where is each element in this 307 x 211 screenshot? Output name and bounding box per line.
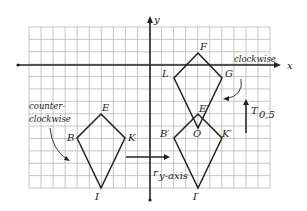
label-I: I (94, 191, 100, 202)
y-axis-label: y (153, 14, 160, 25)
reflection-subscript: y-axis (158, 170, 188, 181)
label-O: O (193, 128, 201, 139)
label-E: E (101, 102, 110, 113)
clockwise-label: clockwise (234, 54, 276, 64)
counterclockwise-label-1: counter- (29, 101, 65, 111)
label-G: G (225, 68, 233, 79)
label-B: B (66, 132, 74, 143)
translation-arrowhead-icon (243, 99, 249, 105)
label-F: F (199, 41, 208, 52)
label-I-prime: I′ (192, 191, 200, 202)
label-K: K (127, 132, 136, 143)
label-B-prime: B′ (159, 128, 170, 139)
translation-subscript: 0,5 (259, 109, 275, 120)
label-K-prime: K′ (221, 128, 232, 139)
counterclockwise-label-2: clockwise (29, 114, 71, 124)
label-L: L (161, 68, 169, 79)
x-axis-label: x (287, 60, 293, 71)
reflection-arrowhead-icon (164, 154, 170, 160)
x-axis-left-dot (16, 63, 19, 66)
y-axis-arrow-icon (147, 16, 153, 23)
y-axis-bottom-dot (148, 198, 151, 201)
label-E-prime: E′ (198, 103, 209, 114)
transformation-diagram: y x E B K I F L G E′ O B′ K′ I′ counter-… (0, 0, 307, 211)
clockwise-arrowhead-icon (223, 96, 229, 101)
